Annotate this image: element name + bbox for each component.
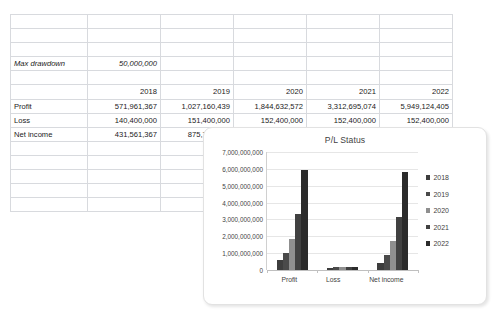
legend-swatch-icon [426, 192, 430, 196]
cell-max-drawdown-label[interactable]: Max drawdown [11, 57, 88, 71]
table-row-profit[interactable]: Profit 571,961,367 1,027,160,439 1,844,6… [11, 99, 453, 113]
chart-container[interactable]: P/L Status 01,000,000,0002,000,000,0003,… [203, 127, 487, 305]
y-axis-tick-label: 4,000,000,000 [222, 199, 263, 206]
chart-legend[interactable]: 20182019202020212022 [426, 174, 449, 247]
cell[interactable] [88, 184, 161, 198]
legend-label: 2018 [433, 174, 449, 181]
bar-group-loss [327, 152, 358, 270]
cell[interactable] [307, 71, 380, 85]
cell[interactable] [88, 170, 161, 184]
cell[interactable] [234, 15, 307, 29]
row-header-loss[interactable]: Loss [11, 113, 88, 127]
cell-profit-2022[interactable]: 5,949,124,405 [380, 99, 453, 113]
cell[interactable] [88, 43, 161, 57]
cell[interactable] [11, 71, 88, 85]
column-header-2018[interactable]: 2018 [88, 85, 161, 99]
x-axis-tickmark [418, 270, 419, 273]
cell[interactable] [307, 15, 380, 29]
cell[interactable] [380, 71, 453, 85]
cell[interactable] [88, 198, 161, 212]
cell[interactable] [11, 43, 88, 57]
table-row[interactable] [11, 15, 453, 29]
cell[interactable] [380, 29, 453, 43]
cell-loss-2018[interactable]: 140,400,000 [88, 113, 161, 127]
cell[interactable] [88, 141, 161, 155]
cell-loss-2021[interactable]: 152,400,000 [307, 113, 380, 127]
cell[interactable] [307, 57, 380, 71]
y-axis-tick-label: 5,000,000,000 [222, 182, 263, 189]
cell[interactable] [380, 43, 453, 57]
y-axis-tick-label: 3,000,000,000 [222, 216, 263, 223]
cell-profit-2021[interactable]: 3,312,695,074 [307, 99, 380, 113]
x-axis-label-loss: Loss [326, 276, 340, 283]
cell[interactable] [161, 57, 234, 71]
cell[interactable] [380, 15, 453, 29]
cell[interactable] [88, 71, 161, 85]
cell-profit-2018[interactable]: 571,961,367 [88, 99, 161, 113]
table-row-max-drawdown[interactable]: Max drawdown 50,000,000 [11, 57, 453, 71]
cell[interactable] [161, 29, 234, 43]
cell[interactable] [380, 57, 453, 71]
cell-loss-2020[interactable]: 152,400,000 [234, 113, 307, 127]
chart-x-axis-labels: ProfitLossNet income [267, 270, 418, 283]
cell-profit-2020[interactable]: 1,844,632,572 [234, 99, 307, 113]
column-header-2019[interactable]: 2019 [161, 85, 234, 99]
table-row-year-headers[interactable]: 2018 2019 2020 2021 2022 [11, 85, 453, 99]
cell-net-income-2018[interactable]: 431,561,367 [88, 127, 161, 141]
cell[interactable] [11, 155, 88, 169]
legend-swatch-icon [426, 241, 430, 245]
cell-loss-2019[interactable]: 151,400,000 [161, 113, 234, 127]
cell[interactable] [307, 29, 380, 43]
x-axis-label-profit: Profit [281, 276, 297, 283]
cell[interactable] [11, 170, 88, 184]
legend-item-2018[interactable]: 2018 [426, 174, 449, 181]
cell-loss-2022[interactable]: 152,400,000 [380, 113, 453, 127]
bar-net-income-2022[interactable] [402, 172, 408, 270]
legend-item-2021[interactable]: 2021 [426, 224, 449, 231]
bar-group-profit [277, 152, 308, 270]
cell[interactable] [11, 141, 88, 155]
legend-label: 2019 [433, 191, 449, 198]
row-header-net-income[interactable]: Net income [11, 127, 88, 141]
cell-profit-2019[interactable]: 1,027,160,439 [161, 99, 234, 113]
y-axis-tick-label: 7,000,000,000 [222, 149, 263, 156]
legend-item-2020[interactable]: 2020 [426, 207, 449, 214]
y-axis-tick-label: 6,000,000,000 [222, 165, 263, 172]
legend-item-2022[interactable]: 2022 [426, 240, 449, 247]
cell[interactable] [11, 85, 88, 99]
bar-profit-2022[interactable] [301, 170, 307, 270]
cell[interactable] [234, 29, 307, 43]
row-header-profit[interactable]: Profit [11, 99, 88, 113]
cell[interactable] [88, 29, 161, 43]
cell[interactable] [11, 184, 88, 198]
table-row[interactable] [11, 29, 453, 43]
cell[interactable] [234, 71, 307, 85]
cell[interactable] [234, 43, 307, 57]
cell[interactable] [88, 15, 161, 29]
legend-label: 2021 [433, 224, 449, 231]
cell[interactable] [11, 15, 88, 29]
x-axis-label-net-income: Net income [369, 276, 403, 283]
cell[interactable] [307, 43, 380, 57]
table-row[interactable] [11, 43, 453, 57]
cell[interactable] [161, 15, 234, 29]
chart-bar-groups [267, 152, 418, 270]
cell-max-drawdown-value[interactable]: 50,000,000 [88, 57, 161, 71]
legend-swatch-icon [426, 175, 430, 179]
cell[interactable] [11, 29, 88, 43]
cell[interactable] [161, 43, 234, 57]
table-row-loss[interactable]: Loss 140,400,000 151,400,000 152,400,000… [11, 113, 453, 127]
table-row[interactable] [11, 71, 453, 85]
cell[interactable] [11, 198, 88, 212]
legend-label: 2022 [433, 240, 449, 247]
legend-swatch-icon [426, 208, 430, 212]
chart-title: P/L Status [204, 135, 486, 145]
cell[interactable] [161, 71, 234, 85]
cell[interactable] [88, 155, 161, 169]
column-header-2020[interactable]: 2020 [234, 85, 307, 99]
legend-item-2019[interactable]: 2019 [426, 191, 449, 198]
legend-swatch-icon [426, 225, 430, 229]
cell[interactable] [234, 57, 307, 71]
column-header-2022[interactable]: 2022 [380, 85, 453, 99]
column-header-2021[interactable]: 2021 [307, 85, 380, 99]
